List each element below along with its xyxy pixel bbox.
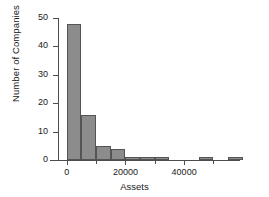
- histogram-chart: 01020304050 Number of Companies 02000040…: [0, 0, 269, 197]
- y-tick-label: 20: [28, 98, 48, 107]
- y-axis-title: Number of Companies: [10, 0, 21, 114]
- x-tick: [67, 160, 68, 165]
- y-tick-label: 0: [28, 155, 48, 164]
- plot-area: [58, 18, 234, 160]
- y-tick-label: 10: [28, 127, 48, 136]
- histogram-bar: [111, 149, 126, 160]
- y-tick-label: 30: [28, 70, 48, 79]
- x-tick: [125, 160, 126, 165]
- x-tick-label: 40000: [159, 168, 209, 177]
- x-tick-label: 20000: [100, 168, 150, 177]
- y-tick-label: 50: [28, 13, 48, 22]
- x-tick: [184, 160, 185, 165]
- x-tick-minor: [213, 160, 214, 164]
- x-axis-title: Assets: [0, 181, 269, 192]
- x-tick-minor: [96, 160, 97, 164]
- histogram-bar: [96, 146, 111, 160]
- x-tick-minor: [155, 160, 156, 164]
- y-tick-label: 40: [28, 41, 48, 50]
- x-axis-line: [50, 160, 240, 161]
- x-tick-label: 0: [42, 168, 92, 177]
- histogram-bar: [81, 115, 96, 160]
- histogram-bar: [67, 24, 82, 160]
